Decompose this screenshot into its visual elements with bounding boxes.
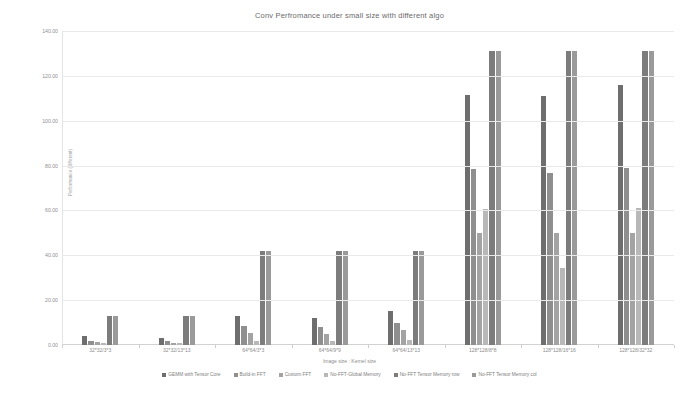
- y-axis-tick-label: 20.00: [14, 297, 58, 303]
- y-axis-title: Performance (different): [68, 93, 73, 253]
- bar: [330, 341, 335, 345]
- bar: [554, 233, 559, 345]
- x-axis-tick-label: 128*128/32*32: [619, 347, 652, 353]
- legend-swatch-icon: [162, 373, 166, 377]
- x-axis-tick-label: 64*64/13*13: [392, 347, 420, 353]
- bar: [183, 316, 188, 345]
- chart-title: Conv Perfromance under small size with d…: [0, 11, 699, 20]
- bar: [248, 333, 253, 345]
- bar-group: [82, 31, 118, 345]
- bar: [107, 316, 112, 345]
- legend-item[interactable]: No-FFT Tensor Memory col: [472, 372, 536, 377]
- grid-line: [62, 255, 674, 256]
- bar: [547, 173, 552, 345]
- x-axis-tick-label: 64*64/9*9: [319, 347, 341, 353]
- x-axis-tick-label: 128*128/16*16: [543, 347, 576, 353]
- y-axis-tick-label: 0.00: [14, 342, 58, 348]
- bar-group: [618, 31, 654, 345]
- legend-item[interactable]: GEMM with Tensor Core: [162, 372, 220, 377]
- bar: [477, 233, 482, 345]
- grid-line: [62, 166, 674, 167]
- x-axis-title: Image size : Kernel size: [0, 358, 699, 364]
- bar-group: [159, 31, 195, 345]
- bar: [318, 327, 323, 345]
- bar: [560, 268, 565, 345]
- x-axis-tick-label: 32*32/13*13: [163, 347, 191, 353]
- bar: [630, 233, 635, 345]
- plot-area: Performance (different): [62, 31, 674, 345]
- bar: [266, 251, 271, 345]
- bar: [465, 95, 470, 345]
- legend-item[interactable]: No-FFT Tensor Memory row: [394, 372, 460, 377]
- legend-item-label: No-FFT Tensor Memory row: [400, 372, 460, 377]
- x-axis-tick: [674, 345, 675, 348]
- bar: [165, 341, 170, 345]
- grid-line: [62, 300, 674, 301]
- bar-group: [388, 31, 424, 345]
- legend-item-label: No-FFT Tensor Memory col: [478, 372, 536, 377]
- x-axis-tick-label: 32*32/3*3: [89, 347, 111, 353]
- bar: [483, 209, 488, 345]
- bar: [419, 251, 424, 345]
- grid-line: [62, 121, 674, 122]
- bar: [235, 316, 240, 345]
- bar: [177, 343, 182, 345]
- grid-line: [62, 31, 674, 32]
- legend-swatch-icon: [234, 373, 238, 377]
- legend-item-label: Custom FFT: [285, 372, 312, 377]
- grid-line: [62, 210, 674, 211]
- bar: [324, 334, 329, 345]
- y-axis-tick-label: 80.00: [14, 163, 58, 169]
- legend-item-label: No-FFT-Global Memory: [330, 372, 380, 377]
- legend-item-label: Build-in FFT: [240, 372, 266, 377]
- y-axis-tick-label: 40.00: [14, 252, 58, 258]
- bar: [471, 169, 476, 345]
- grid-line: [62, 76, 674, 77]
- legend-swatch-icon: [472, 373, 476, 377]
- bar: [636, 208, 641, 345]
- chart-container: Conv Perfromance under small size with d…: [0, 0, 699, 403]
- bar-group: [235, 31, 271, 345]
- bar: [95, 342, 100, 345]
- chart-legend: GEMM with Tensor CoreBuild-in FFTCustom …: [0, 372, 699, 377]
- bar: [82, 336, 87, 345]
- x-axis-tick-label: 64*64/3*3: [242, 347, 264, 353]
- bar: [343, 251, 348, 345]
- legend-swatch-icon: [279, 373, 283, 377]
- y-axis-tick-label: 60.00: [14, 207, 58, 213]
- legend-item-label: GEMM with Tensor Core: [168, 372, 220, 377]
- bar: [336, 251, 341, 345]
- bar: [407, 340, 412, 345]
- bar: [159, 338, 164, 345]
- legend-swatch-icon: [324, 373, 328, 377]
- bar: [394, 323, 399, 345]
- bar: [241, 326, 246, 345]
- legend-swatch-icon: [394, 373, 398, 377]
- bar: [541, 96, 546, 345]
- bar: [190, 316, 195, 345]
- bar: [401, 330, 406, 345]
- bar: [618, 85, 623, 345]
- bar: [171, 343, 176, 345]
- y-axis-tick-label: 140.00: [14, 28, 58, 34]
- y-axis-tick-label: 120.00: [14, 73, 58, 79]
- bar-group: [465, 31, 501, 345]
- bar: [312, 318, 317, 345]
- bar: [88, 341, 93, 345]
- bar: [624, 168, 629, 345]
- legend-item[interactable]: Build-in FFT: [234, 372, 266, 377]
- y-axis-tick-label: 100.00: [14, 118, 58, 124]
- bar: [254, 341, 259, 345]
- bar-group: [541, 31, 577, 345]
- bar: [113, 316, 118, 345]
- legend-item[interactable]: Custom FFT: [279, 372, 312, 377]
- bar-group: [312, 31, 348, 345]
- bar: [413, 251, 418, 345]
- legend-item[interactable]: No-FFT-Global Memory: [324, 372, 380, 377]
- x-axis-tick-label: 128*128/8*8: [469, 347, 497, 353]
- bar-groups: [62, 31, 674, 345]
- bar: [260, 251, 265, 345]
- bar: [101, 343, 106, 345]
- bar: [388, 311, 393, 345]
